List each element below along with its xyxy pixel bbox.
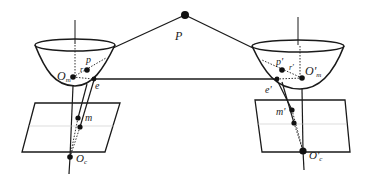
right-optical-axis [302, 89, 303, 151]
label-left-p: p [85, 54, 91, 65]
label-P: P [174, 29, 183, 43]
left-mirror-focus-dot [70, 74, 76, 80]
label-right-camera-center: O'c [309, 149, 323, 163]
left-camera-center-dot [67, 154, 73, 160]
label-left-m: m [85, 112, 92, 123]
label-left-camera-center: Oc [76, 152, 88, 166]
left-mirror-point-p-dot [84, 67, 90, 73]
right-image-epipole-dot [291, 120, 296, 125]
label-right-p: p' [275, 56, 284, 67]
label-right-r: r' [289, 63, 294, 72]
label-left-mirror-focus: Om [57, 69, 71, 84]
ray-P-to-right-mirror [185, 15, 253, 48]
right-mirror-focus-dot [299, 75, 305, 81]
epipolar-geometry-diagram: P Om p r e m Oc [0, 0, 369, 180]
label-left-e: e [95, 80, 100, 91]
left-optical-axis [70, 86, 73, 157]
label-right-e: e' [265, 84, 272, 95]
right-camera-center-dot [299, 147, 306, 154]
label-left-r: r [80, 65, 84, 74]
world-point-group: P [113, 11, 253, 48]
right-proj-m [292, 110, 303, 151]
right-mirror-point-p-dot [279, 67, 285, 73]
label-right-mirror-focus: O'm [305, 64, 321, 79]
right-image-point-m-dot [289, 107, 294, 112]
left-image-epipole-dot [77, 124, 82, 129]
label-right-m: m' [276, 106, 286, 117]
right-focus-to-epipole [277, 78, 302, 79]
left-image-point-m-dot [75, 115, 80, 120]
right-proj-e [294, 123, 303, 151]
left-mirror-group: Om p r e [35, 20, 115, 157]
world-point-P-dot [181, 11, 189, 19]
left-focus-to-epipole [73, 77, 93, 79]
